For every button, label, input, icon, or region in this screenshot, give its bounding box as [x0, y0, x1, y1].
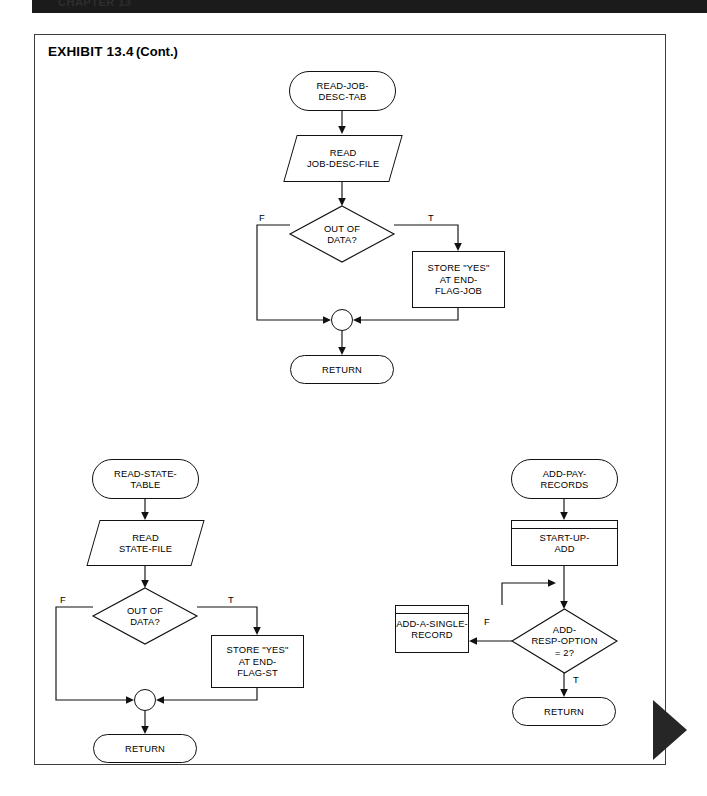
node-label: RETURN [322, 364, 362, 375]
node-return-1: RETURN [290, 355, 394, 384]
node-start-up-add: START-UP- ADD [511, 520, 618, 566]
node-store-yes-end-flag-job: STORE "YES" AT END- FLAG-JOB [412, 251, 505, 308]
node-label: STORE "YES" AT END- FLAG-ST [227, 644, 289, 678]
node-label: OUT OF DATA? [290, 206, 394, 262]
node-out-of-data-decision-1: OUT OF DATA? [290, 206, 394, 262]
node-label: ADD-PAY- RECORDS [541, 468, 589, 491]
node-read-job-desc-file: READ JOB-DESC-FILE [283, 135, 402, 182]
node-read-job-desc-tab-start: READ-JOB- DESC-TAB [289, 71, 396, 111]
exhibit-title: EXHIBIT 13.4 [48, 44, 134, 59]
node-label: START-UP- ADD [540, 532, 590, 555]
node-add-resp-option-decision: ADD- RESP-OPTION = 2? [512, 609, 617, 673]
running-head-band: CHAPTER 13 [32, 0, 707, 13]
node-label: READ-STATE- TABLE [114, 468, 177, 491]
node-add-pay-records-start: ADD-PAY- RECORDS [511, 459, 618, 499]
running-head-text: CHAPTER 13 [58, 0, 131, 8]
exhibit-frame: READ-JOB- DESC-TAB READ JOB-DESC-FILE OU… [34, 34, 666, 765]
node-label: READ STATE-FILE [119, 532, 172, 555]
node-label: STORE "YES" AT END- FLAG-JOB [428, 262, 490, 296]
node-read-state-table-start: READ-STATE- TABLE [92, 459, 199, 499]
branch-label-false-2: F [60, 594, 66, 605]
node-label: ADD-A-SINGLE- RECORD [396, 618, 468, 641]
exhibit-continued-label: (Cont.) [136, 44, 178, 59]
node-label: RETURN [544, 706, 584, 717]
node-merge-connector-2 [134, 689, 156, 711]
node-label: READ JOB-DESC-FILE [307, 147, 379, 170]
node-out-of-data-decision-2: OUT OF DATA? [93, 588, 197, 644]
branch-label-true-2: T [228, 594, 234, 605]
page-corner-triangle-icon [653, 700, 687, 760]
node-read-state-file: READ STATE-FILE [86, 520, 204, 566]
node-merge-connector-1 [331, 309, 353, 331]
node-store-yes-end-flag-st: STORE "YES" AT END- FLAG-ST [211, 635, 304, 688]
scanned-page: CHAPTER 13 [0, 0, 707, 796]
node-add-a-single-record: ADD-A-SINGLE- RECORD [395, 605, 469, 653]
branch-label-false-1: F [259, 212, 265, 223]
branch-label-true-3: T [573, 674, 579, 685]
node-label: READ-JOB- DESC-TAB [317, 80, 369, 103]
branch-label-true-1: T [428, 212, 434, 223]
node-label: RETURN [125, 743, 165, 754]
branch-label-false-3: F [484, 616, 490, 627]
node-return-3: RETURN [512, 697, 616, 726]
node-label: OUT OF DATA? [93, 588, 197, 644]
node-label: ADD- RESP-OPTION = 2? [512, 609, 617, 673]
node-return-2: RETURN [93, 734, 197, 763]
